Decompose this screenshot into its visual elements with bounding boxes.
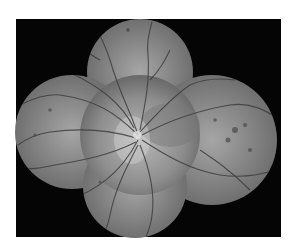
fundus-fields xyxy=(15,19,277,238)
optic-disc xyxy=(133,131,141,139)
retinal-montage xyxy=(0,0,297,250)
